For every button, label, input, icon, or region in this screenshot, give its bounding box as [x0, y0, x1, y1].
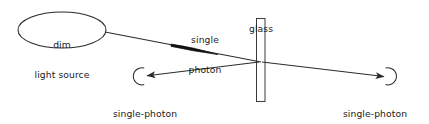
counter-t-label: single-photon counter “T” — [313, 88, 429, 124]
counter-t-label-line1: single-photon — [313, 109, 429, 119]
counter-r-arc — [133, 68, 144, 85]
counter-t-arc — [386, 68, 397, 85]
transmitted-beam-line — [262, 62, 384, 77]
glass-label-line1: glass — [234, 24, 288, 34]
source-label-line1: dim — [22, 40, 102, 50]
optics-diagram: dim light source single photon glass sin… — [0, 0, 429, 124]
counter-r-label-line1: single-photon — [83, 109, 207, 119]
photon-label: single photon — [168, 14, 242, 96]
source-label-line2: light source — [22, 70, 102, 80]
glass-label: glass — [234, 3, 288, 54]
photon-label-line1: single — [168, 35, 242, 45]
counter-r-label: single-photon counter “R” — [83, 88, 207, 124]
photon-label-line2: photon — [168, 65, 242, 75]
